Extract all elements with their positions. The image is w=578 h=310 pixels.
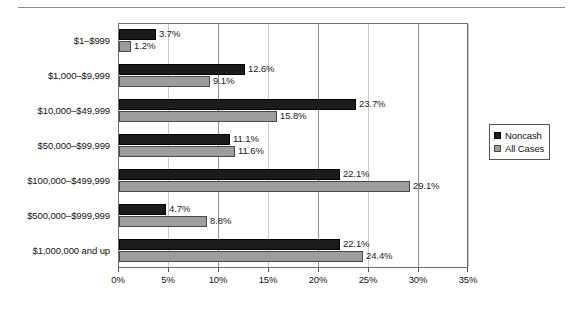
legend-label-all-cases: All Cases	[505, 143, 544, 154]
y-axis-label: $500,000–$999,999	[0, 198, 114, 233]
bar-value-label: 12.6%	[248, 63, 274, 74]
bar-value-label: 8.8%	[210, 215, 231, 226]
bar-value-label: 11.6%	[238, 145, 264, 156]
bar-value-label: 1.2%	[134, 40, 155, 51]
bar-noncash	[119, 204, 166, 215]
x-axis-tick-label: 25%	[359, 274, 378, 285]
x-axis-tick	[418, 268, 419, 272]
plot-area: 3.7%1.2%12.6%9.1%23.7%15.8%11.1%11.6%22.…	[118, 23, 468, 268]
bar-value-label: 29.1%	[413, 180, 439, 191]
bar-noncash	[119, 64, 245, 75]
bar-noncash	[119, 169, 340, 180]
y-axis-label-text: $1–$999	[0, 35, 114, 46]
bar-value-label: 4.7%	[169, 203, 190, 214]
x-axis-tick-label: 5%	[161, 274, 175, 285]
bar-allcases	[119, 181, 410, 192]
x-axis-tick-label: 0%	[111, 274, 125, 285]
chart-legend: Noncash All Cases	[489, 124, 550, 160]
bar-noncash	[119, 134, 230, 145]
bar-value-label: 23.7%	[359, 98, 385, 109]
bar-allcases	[119, 76, 210, 87]
y-axis-label-text: $1,000–$9,999	[0, 70, 114, 81]
chart-figure: $1–$999$1,000–$9,999$10,000–$49,999$50,0…	[0, 0, 578, 310]
bar-allcases	[119, 251, 363, 262]
x-axis-tick-label: 30%	[409, 274, 428, 285]
bar-value-label: 3.7%	[159, 28, 180, 39]
bar-value-label: 22.1%	[343, 238, 369, 249]
bar-value-label: 24.4%	[366, 250, 392, 261]
bar-allcases	[119, 111, 277, 122]
x-axis-tick	[467, 268, 468, 272]
legend-swatch-all-cases-icon	[494, 145, 501, 152]
y-axis-category-labels: $1–$999$1,000–$9,999$10,000–$49,999$50,0…	[0, 23, 114, 268]
y-axis-label: $10,000–$49,999	[0, 93, 114, 128]
bar-value-label: 15.8%	[280, 110, 306, 121]
bar-noncash	[119, 239, 340, 250]
y-axis-label: $100,000–$499,999	[0, 163, 114, 198]
gridline-35%	[468, 24, 469, 267]
y-axis-label: $50,000–$99,999	[0, 128, 114, 163]
y-axis-label-text: $100,000–$499,999	[0, 175, 114, 186]
bar-value-label: 9.1%	[213, 75, 234, 86]
x-axis-tick-label: 15%	[259, 274, 278, 285]
legend-item-noncash: Noncash	[494, 129, 544, 142]
bar-group: 22.1%24.4%	[119, 234, 467, 269]
x-axis: 0%5%10%15%20%25%30%35%	[118, 268, 468, 290]
bar-noncash	[119, 99, 356, 110]
bar-group: 12.6%9.1%	[119, 59, 467, 94]
bar-group: 3.7%1.2%	[119, 24, 467, 59]
x-axis-tick-label: 20%	[309, 274, 328, 285]
bar-allcases	[119, 41, 131, 52]
bar-value-label: 22.1%	[343, 168, 369, 179]
x-axis-tick	[368, 268, 369, 272]
bar-value-label: 11.1%	[233, 133, 259, 144]
bar-allcases	[119, 146, 235, 157]
bar-group: 11.1%11.6%	[119, 129, 467, 164]
y-axis-label: $1,000–$9,999	[0, 58, 114, 93]
legend-label-noncash: Noncash	[505, 130, 542, 141]
x-axis-tick	[118, 268, 119, 272]
x-axis-tick	[318, 268, 319, 272]
y-axis-label-text: $50,000–$99,999	[0, 140, 114, 151]
bar-group: 23.7%15.8%	[119, 94, 467, 129]
bar-group: 4.7%8.8%	[119, 199, 467, 234]
bar-noncash	[119, 29, 156, 40]
y-axis-label: $1,000,000 and up	[0, 233, 114, 268]
bar-allcases	[119, 216, 207, 227]
header-rule	[18, 7, 565, 8]
legend-swatch-noncash-icon	[494, 132, 501, 139]
x-axis-tick	[268, 268, 269, 272]
x-axis-tick-label: 35%	[459, 274, 478, 285]
y-axis-label-text: $1,000,000 and up	[0, 245, 114, 256]
y-axis-label: $1–$999	[0, 23, 114, 58]
x-axis-tick	[168, 268, 169, 272]
bar-groups: 3.7%1.2%12.6%9.1%23.7%15.8%11.1%11.6%22.…	[119, 24, 467, 267]
x-axis-tick-label: 10%	[209, 274, 228, 285]
x-axis-tick	[218, 268, 219, 272]
bar-group: 22.1%29.1%	[119, 164, 467, 199]
y-axis-label-text: $500,000–$999,999	[0, 210, 114, 221]
y-axis-label-text: $10,000–$49,999	[0, 105, 114, 116]
legend-item-all-cases: All Cases	[494, 142, 544, 155]
